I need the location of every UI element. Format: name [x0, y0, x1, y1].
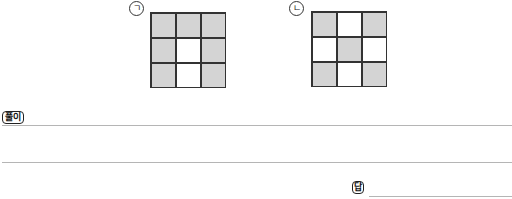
grid-cell-blank	[337, 12, 362, 37]
grid-cell-shaded	[201, 63, 226, 88]
grid-cell-shaded	[151, 38, 176, 63]
grid-cell-shaded	[312, 12, 337, 37]
grid-cell-shaded	[201, 13, 226, 38]
grid-cell-blank	[312, 37, 337, 62]
grid-cell-shaded	[362, 62, 387, 87]
grid-cell-blank	[176, 63, 201, 88]
solution-line-2[interactable]	[2, 162, 512, 163]
grid-cell-shaded	[151, 63, 176, 88]
grid-cell-shaded	[312, 62, 337, 87]
answer-line[interactable]	[369, 196, 512, 197]
grid-cell-blank	[362, 37, 387, 62]
grid-cell-shaded	[176, 13, 201, 38]
figure-label-nieun: ㄴ	[289, 1, 304, 16]
grid-cell-blank	[337, 62, 362, 87]
grid-cell-shaded	[151, 13, 176, 38]
solution-label: 풀이	[2, 111, 24, 124]
figure-label-giyeok: ㄱ	[129, 1, 144, 16]
grid-cell-shaded	[337, 37, 362, 62]
grid-cell-blank	[176, 38, 201, 63]
grid-giyeok	[150, 12, 226, 88]
grid-cell-shaded	[362, 12, 387, 37]
grid-nieun	[311, 11, 387, 87]
answer-label: 답	[352, 181, 364, 194]
solution-line-1[interactable]	[2, 125, 512, 126]
grid-cell-shaded	[201, 38, 226, 63]
